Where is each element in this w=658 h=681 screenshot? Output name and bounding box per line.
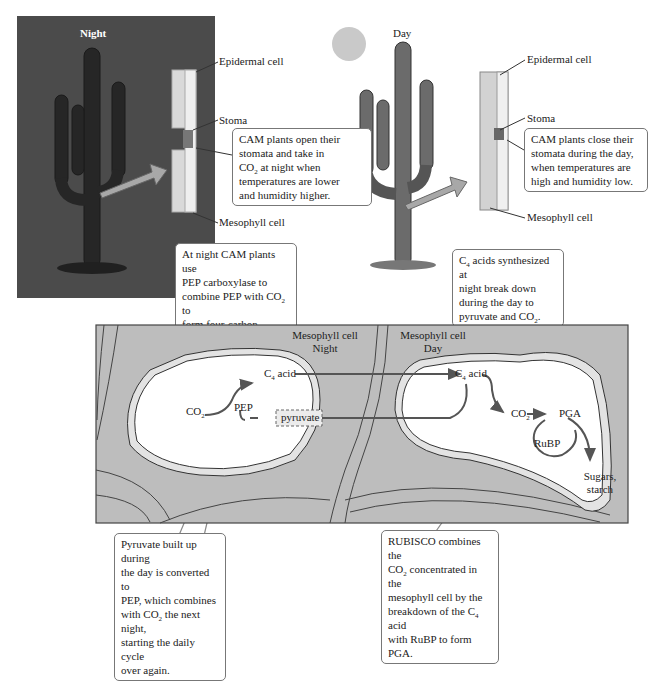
night-pyruvate-label: pyruvate [281, 411, 319, 423]
day-c4-acid-label: C4 acid [455, 367, 487, 382]
night-cell-title: Mesophyll cell Night [285, 329, 365, 355]
day-pga-label: PGA [559, 407, 581, 419]
day-sugars-label: Sugars, starch [575, 470, 625, 496]
night-pep-label: PEP [234, 401, 253, 413]
callout-rubisco: RUBISCO combines the CO2 concentrated in… [381, 530, 499, 664]
day-rubp-label: RuBP [534, 437, 560, 449]
callout-pyruvate-cycle: Pyruvate built up during the day is conv… [114, 533, 226, 681]
day-cell-title: Mesophyll cell Day [393, 329, 473, 355]
day-co2-label: CO2 [511, 407, 530, 422]
night-c4-acid-label: C4 acid [264, 367, 296, 382]
night-co2-label: CO2 [186, 405, 205, 420]
